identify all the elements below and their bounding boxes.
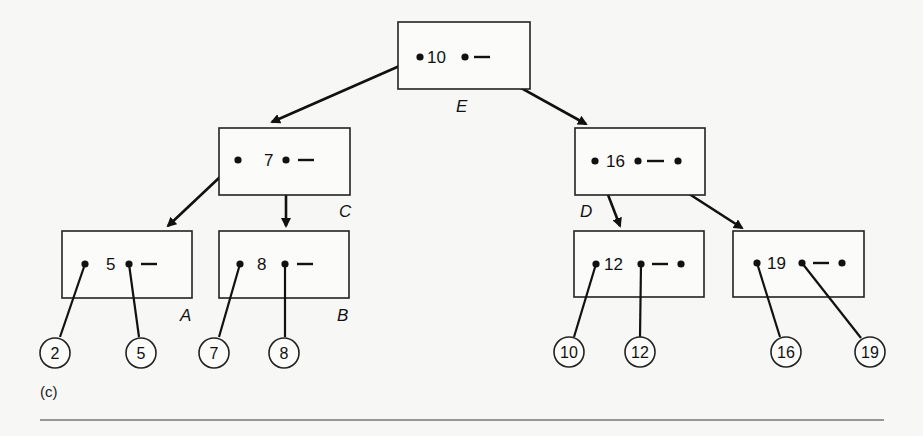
record-8: 8	[269, 338, 299, 368]
figure-caption: (c)	[40, 383, 58, 400]
pointer-dot	[461, 53, 468, 60]
node-key: 16	[606, 152, 625, 171]
record-10: 10	[554, 337, 584, 367]
pointer-dot	[416, 53, 423, 60]
node-label: C	[339, 202, 352, 221]
record-value: 12	[631, 344, 649, 361]
edge-L12-record-12	[640, 264, 641, 337]
pointer-dot	[234, 156, 241, 163]
node-label: B	[337, 306, 348, 325]
node-key: 7	[264, 151, 273, 170]
node-label: E	[456, 97, 468, 116]
record-7: 7	[199, 338, 229, 368]
record-2: 2	[40, 338, 70, 368]
record-19: 19	[855, 337, 885, 367]
record-value: 16	[777, 344, 795, 361]
record-value: 10	[560, 344, 578, 361]
node-D: 16 D	[575, 128, 705, 221]
record-value: 19	[861, 344, 879, 361]
node-A: 5 A	[62, 231, 192, 325]
node-key: 10	[427, 48, 446, 67]
node-key: 19	[767, 254, 786, 273]
pointer-dot	[591, 157, 598, 164]
node-key: 5	[106, 255, 115, 274]
record-16: 16	[771, 337, 801, 367]
record-5: 5	[126, 338, 156, 368]
node-label: D	[580, 202, 592, 221]
record-value: 7	[210, 345, 219, 362]
btree-diagram: 10 E 7 C 16 D 5 A 8 B	[0, 0, 923, 436]
record-value: 8	[280, 345, 289, 362]
record-value: 5	[137, 345, 146, 362]
record-value: 2	[51, 345, 60, 362]
pointer-dot	[674, 157, 681, 164]
node-key: 12	[604, 255, 623, 274]
node-key: 8	[257, 255, 266, 274]
record-12: 12	[625, 337, 655, 367]
records: 2 5 7 8 10 12 16 19	[40, 337, 885, 368]
pointer-dot	[634, 157, 641, 164]
pointer-dot	[838, 259, 845, 266]
node-E: 10 E	[398, 22, 530, 116]
pointer-dot	[282, 156, 289, 163]
pointer-dot	[677, 260, 684, 267]
node-leaf-12: 12	[574, 231, 704, 297]
node-label: A	[179, 306, 191, 325]
node-leaf-19: 19	[733, 231, 864, 297]
